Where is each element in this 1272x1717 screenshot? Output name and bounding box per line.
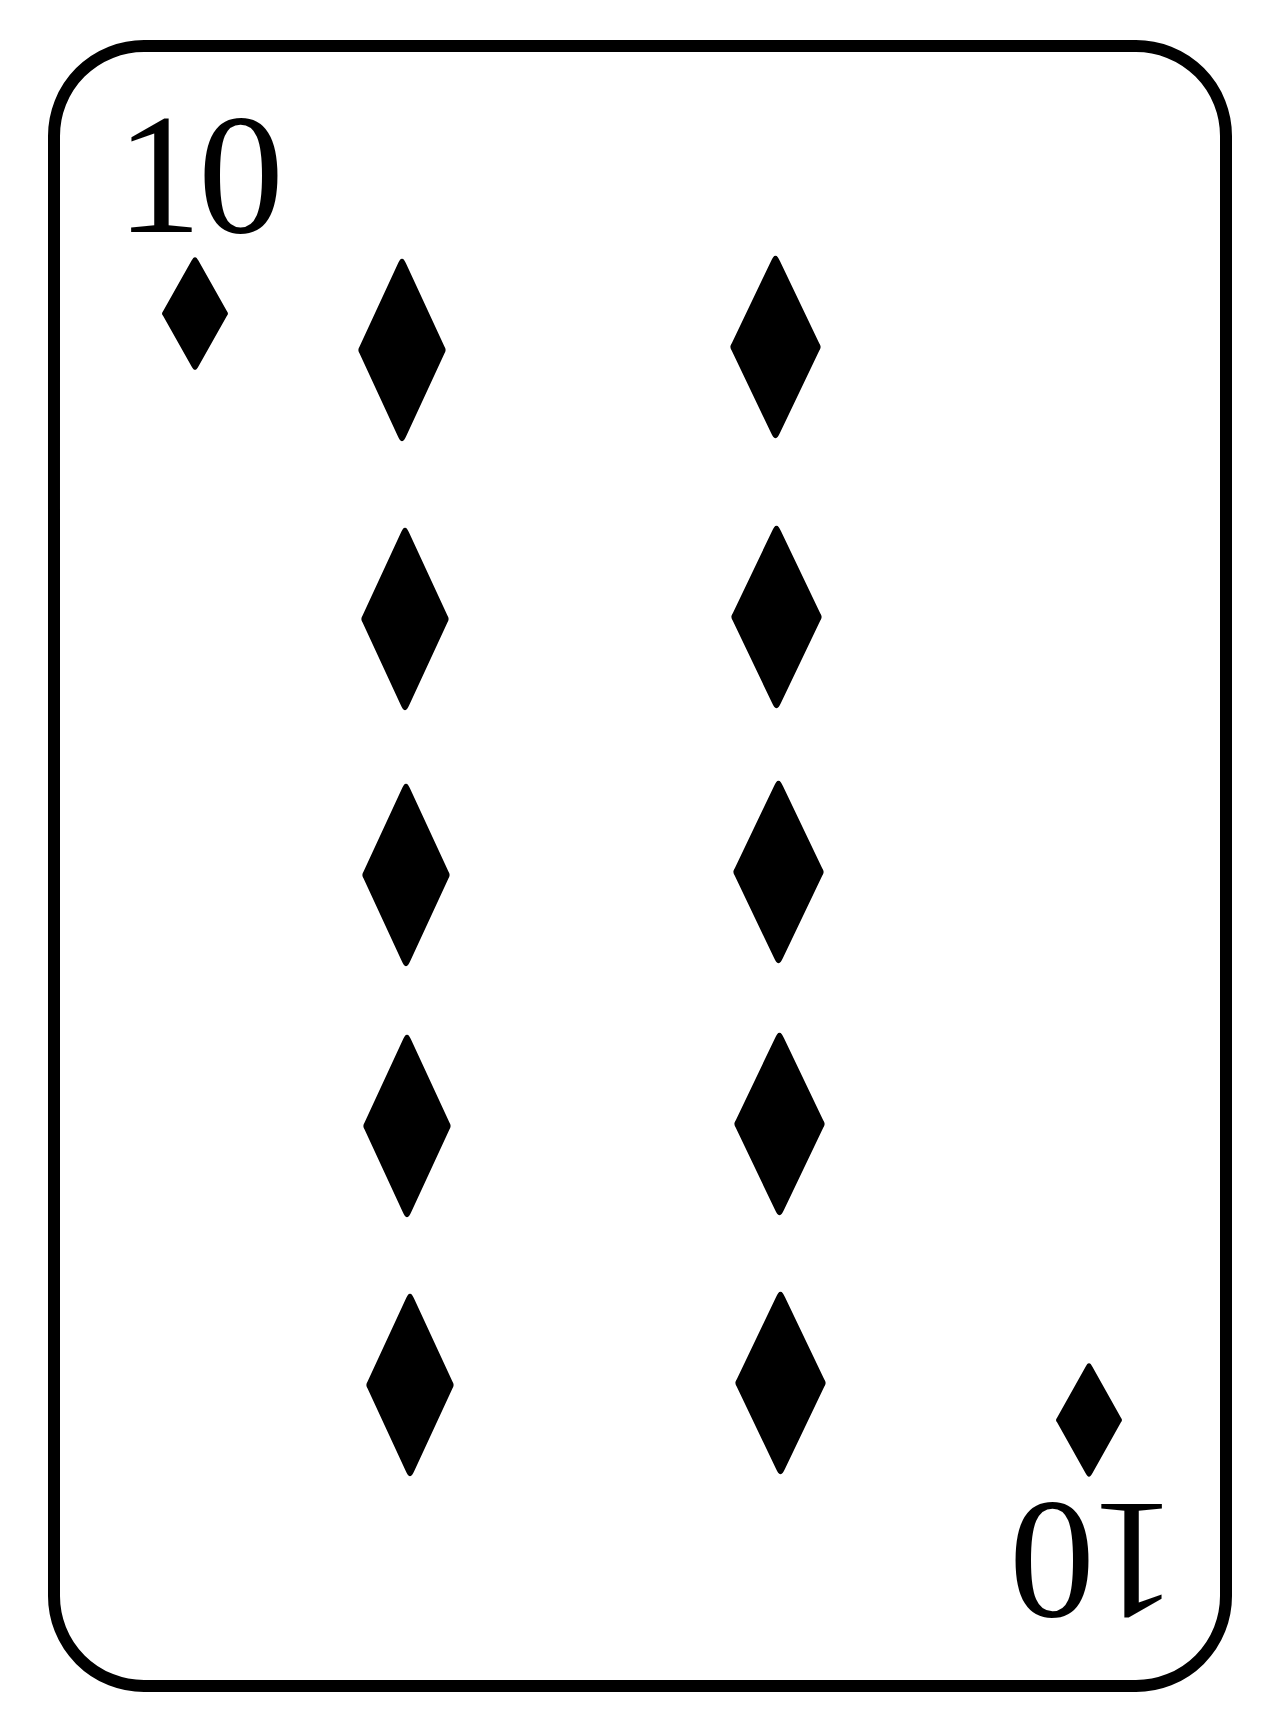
diamond-icon — [730, 524, 823, 710]
playing-card: 10 10 — [0, 0, 1272, 1717]
diamond-icon — [361, 782, 451, 968]
diamond-icon — [362, 1033, 452, 1219]
rank-index-bottom: 10 — [1013, 1476, 1177, 1648]
diamond-icon — [729, 254, 822, 440]
corner-diamond-icon-top — [161, 256, 229, 371]
diamond-icon — [733, 1031, 826, 1217]
corner-diamond-icon-bottom — [1055, 1362, 1123, 1478]
rank-index-top: 10 — [116, 88, 280, 260]
diamond-icon — [357, 257, 447, 443]
diamond-icon — [734, 1290, 827, 1476]
diamond-icon — [732, 779, 825, 965]
diamond-icon — [360, 526, 450, 712]
diamond-icon — [365, 1292, 455, 1478]
